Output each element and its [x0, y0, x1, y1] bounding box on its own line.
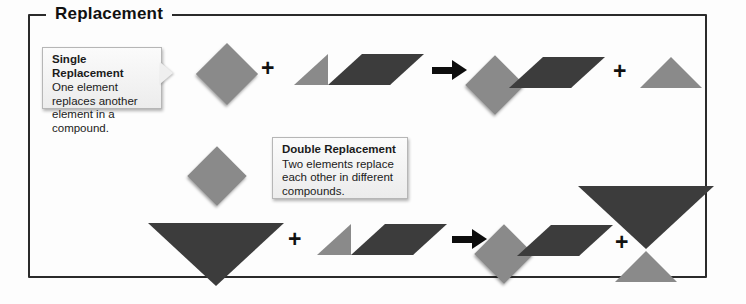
diagram-canvas: Replacement + + + + Single Replacement [0, 0, 746, 304]
arrow-stem [432, 67, 454, 74]
shape-gray-triangle-r1-compound [294, 54, 328, 85]
operator-plus-r2-reactants: + [288, 228, 301, 251]
callout-title: Double Replacement [282, 143, 398, 157]
shape-gray-triangle-r2-product [615, 251, 677, 282]
shape-dark-down-triangle-r2-product [578, 186, 714, 249]
callout-body: Two elements replace each other in diffe… [282, 158, 398, 199]
callout-title: Single Replacement [52, 53, 152, 80]
callout-double-replacement: Double Replacement Two elements replace … [272, 137, 408, 199]
shape-gray-triangle-r2-compound [317, 224, 351, 255]
operator-plus-r1-products: + [613, 60, 626, 83]
shape-dark-down-triangle-r2-reactant [148, 223, 284, 286]
callout-body: One element replaces another element in … [52, 81, 152, 135]
shape-gray-triangle-r1-product [640, 57, 702, 88]
callout-tail-icon [160, 62, 173, 84]
arrow-head-icon [452, 60, 467, 80]
operator-plus-r1-reactants: + [261, 57, 274, 80]
panel-legend: Replacement [46, 3, 172, 25]
arrow-stem [452, 236, 474, 243]
callout-single-replacement: Single Replacement One element replaces … [42, 47, 162, 109]
